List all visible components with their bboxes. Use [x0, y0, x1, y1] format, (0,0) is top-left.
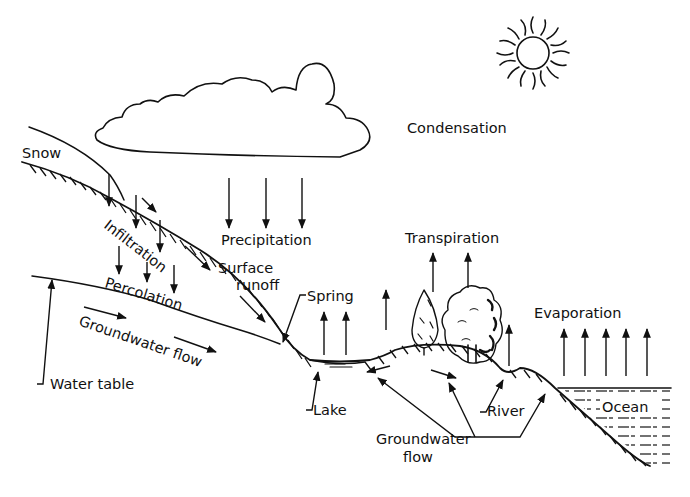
river — [480, 325, 509, 412]
precipitation-label: Precipitation — [221, 232, 312, 248]
groundwater-flow-label-2: flow — [403, 449, 433, 465]
river-label: River — [487, 403, 525, 419]
groundwater-flow-arrows-valley — [367, 366, 545, 437]
cloud — [95, 63, 369, 157]
snow-cap — [29, 127, 124, 200]
transpiration-arrows — [433, 253, 468, 292]
groundwater-flow-label-1: Groundwater — [376, 431, 471, 447]
spring-label: Spring — [307, 288, 354, 304]
spring-pointer — [283, 295, 306, 342]
surface-runoff-label-1: Surface — [218, 260, 273, 276]
trees — [412, 286, 502, 363]
water-table-label: Water table — [50, 376, 134, 392]
ocean-label: Ocean — [602, 399, 648, 415]
transpiration-label: Transpiration — [404, 230, 499, 246]
sun-icon — [497, 17, 569, 89]
snow-label: Snow — [22, 145, 61, 161]
precipitation-arrows — [229, 178, 302, 228]
evaporation-arrows — [564, 329, 647, 376]
surface-runoff-label-2: runoff — [236, 277, 280, 293]
water-cycle-diagram: Condensation Precipitation Snow Infiltra… — [0, 0, 690, 497]
evaporation-label: Evaporation — [534, 305, 621, 321]
lake-label: Lake — [313, 402, 347, 418]
condensation-label: Condensation — [407, 120, 507, 136]
